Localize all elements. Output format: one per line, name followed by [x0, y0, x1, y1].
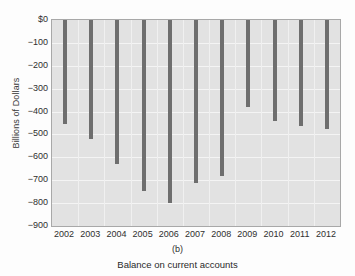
y-axis-tick-labels: $0−100−200−300−400−500−600−700−800−900: [10, 19, 48, 227]
gridline-vertical: [78, 20, 79, 226]
gridline-vertical: [131, 20, 132, 226]
y-axis-tick-label: −900: [10, 220, 48, 230]
gridline-vertical: [183, 20, 184, 226]
bar: [63, 20, 67, 124]
x-axis-tick-labels: 2002200320042005200620072008200920102011…: [51, 229, 341, 243]
bar: [246, 20, 250, 107]
plot-area: [51, 19, 341, 227]
gridline-vertical: [261, 20, 262, 226]
figure-caption: Balance on current accounts: [0, 259, 355, 270]
bar: [89, 20, 93, 139]
panel-label: (b): [0, 244, 355, 254]
y-axis-tick-label: −200: [10, 60, 48, 70]
y-axis-tick-label: −100: [10, 37, 48, 47]
gridline-vertical: [314, 20, 315, 226]
y-axis-tick-label: −400: [10, 106, 48, 116]
gridline-vertical: [104, 20, 105, 226]
bar: [299, 20, 303, 126]
y-axis-tick-label: −700: [10, 174, 48, 184]
bar: [142, 20, 146, 191]
bar: [115, 20, 119, 164]
gridline-vertical: [235, 20, 236, 226]
bar: [325, 20, 329, 129]
bar: [273, 20, 277, 121]
gridline-horizontal: [52, 203, 340, 204]
gridline-vertical: [157, 20, 158, 226]
bar: [168, 20, 172, 203]
y-axis-tick-label: −600: [10, 151, 48, 161]
y-axis-tick-label: −500: [10, 128, 48, 138]
figure-current-account-balance: Billions of Dollars $0−100−200−300−400−5…: [0, 0, 355, 276]
bar: [220, 20, 224, 176]
gridline-vertical: [209, 20, 210, 226]
x-axis-tick-label: 2012: [306, 229, 346, 239]
gridline-vertical: [288, 20, 289, 226]
y-axis-tick-label: −300: [10, 83, 48, 93]
bar: [194, 20, 198, 183]
y-axis-tick-label: −800: [10, 197, 48, 207]
y-axis-tick-label: $0: [10, 14, 48, 24]
